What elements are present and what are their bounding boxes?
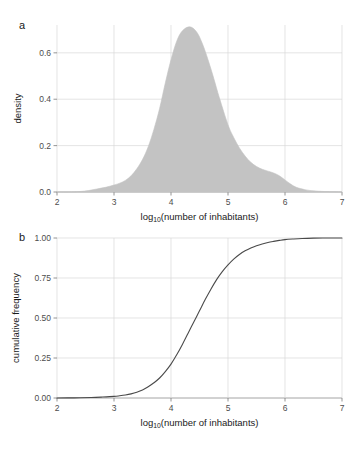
ytick-label: 1.00 xyxy=(34,233,51,243)
xaxis-title: log10(number of inhabitants) xyxy=(141,417,259,429)
xtick-label: 2 xyxy=(55,197,60,207)
xtick-label: 3 xyxy=(112,403,117,413)
xtick-label: 4 xyxy=(169,403,174,413)
panel-a-plot: 0.00.20.40.6234567log10(number of inhabi… xyxy=(0,0,361,226)
xaxis-title: log10(number of inhabitants) xyxy=(141,211,259,223)
panel-b-cumulative: b 0.000.250.500.751.00234567log10(number… xyxy=(0,226,361,452)
xtick-label: 7 xyxy=(340,403,345,413)
panel-b-plot: 0.000.250.500.751.00234567log10(number o… xyxy=(0,226,361,452)
xtick-label: 5 xyxy=(226,403,231,413)
figure-container: a 0.00.20.40.6234567log10(number of inha… xyxy=(0,0,361,452)
xaxis-title-text: log10(number of inhabitants) xyxy=(141,211,259,223)
yaxis-title-text: density xyxy=(12,93,23,123)
panel-a-density: a 0.00.20.40.6234567log10(number of inha… xyxy=(0,0,361,226)
xaxis-title-text: log10(number of inhabitants) xyxy=(141,417,259,429)
xtick-label: 7 xyxy=(340,197,345,207)
xtick-label: 5 xyxy=(226,197,231,207)
ytick-label: 0.00 xyxy=(34,393,51,403)
ytick-label: 0.6 xyxy=(39,48,51,58)
xtick-label: 6 xyxy=(283,197,288,207)
ytick-label: 0.0 xyxy=(39,187,51,197)
density-area xyxy=(57,27,342,192)
xtick-label: 4 xyxy=(169,197,174,207)
xtick-label: 6 xyxy=(283,403,288,413)
ytick-label: 0.4 xyxy=(39,94,51,104)
ytick-label: 0.50 xyxy=(34,313,51,323)
xtick-label: 2 xyxy=(55,403,60,413)
xtick-label: 3 xyxy=(112,197,117,207)
ytick-label: 0.25 xyxy=(34,353,51,363)
ytick-label: 0.75 xyxy=(34,273,51,283)
ytick-label: 0.2 xyxy=(39,141,51,151)
yaxis-title-text: cumulative frequency xyxy=(10,273,21,363)
